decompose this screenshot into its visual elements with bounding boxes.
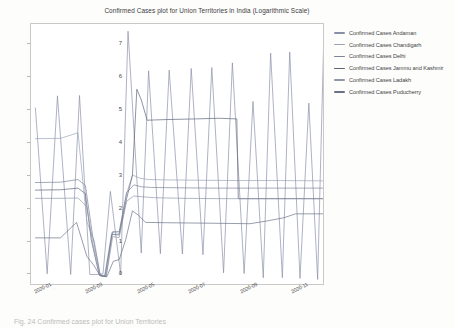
legend-line-swatch-icon (334, 32, 345, 33)
legend-label: Confirmed Cases Delhi (349, 53, 405, 59)
legend-line-swatch-icon (334, 79, 345, 80)
y-tick-mark (27, 175, 30, 176)
series-line (35, 133, 323, 276)
y-tick-mark (27, 109, 30, 110)
legend-line-swatch-icon (334, 44, 345, 45)
legend-item[interactable]: Confirmed Cases Puducherry (334, 86, 454, 98)
legend-item[interactable]: Confirmed Cases Ladakh (334, 74, 454, 86)
y-tick-label: 5 (108, 105, 122, 111)
y-tick-mark (27, 76, 30, 77)
legend-line-swatch-icon (334, 68, 345, 69)
legend-label: Confirmed Cases Ladakh (349, 77, 411, 83)
y-tick-mark (27, 142, 30, 143)
series-line (35, 31, 323, 279)
plot-area (30, 23, 324, 285)
y-tick-label: 6 (108, 72, 122, 78)
y-tick-label: 4 (108, 138, 122, 144)
x-tick-mark (248, 285, 249, 288)
legend-line-swatch-icon (334, 56, 345, 57)
x-tick-mark (93, 285, 94, 288)
chart-legend: Confirmed Cases AndamanConfirmed Cases C… (334, 27, 454, 98)
y-tick-mark (27, 273, 30, 274)
y-tick-label: 7 (108, 39, 122, 45)
plot-lines (31, 24, 324, 285)
y-tick-label: 0 (108, 270, 122, 276)
legend-label: Confirmed Cases Andaman (349, 30, 416, 36)
legend-label: Confirmed Cases Jammu and Kashmir (349, 65, 443, 71)
x-tick-mark (299, 285, 300, 288)
legend-line-swatch-icon (334, 91, 345, 92)
y-tick-label: 1 (108, 237, 122, 243)
x-tick-mark (196, 285, 197, 288)
y-tick-mark (27, 208, 30, 209)
y-tick-label: 3 (108, 171, 122, 177)
legend-item[interactable]: Confirmed Cases Chandigarh (334, 39, 454, 51)
figure-caption: Fig. 24 Confirmed cases plot for Union T… (14, 318, 334, 328)
legend-label: Confirmed Cases Chandigarh (349, 42, 421, 48)
legend-item[interactable]: Confirmed Cases Jammu and Kashmir (334, 62, 454, 74)
legend-item[interactable]: Confirmed Cases Delhi (334, 51, 454, 63)
x-tick-mark (42, 285, 43, 288)
legend-item[interactable]: Confirmed Cases Andaman (334, 27, 454, 39)
y-tick-mark (27, 43, 30, 44)
x-tick-mark (145, 285, 146, 288)
legend-label: Confirmed Cases Puducherry (349, 89, 421, 95)
y-tick-mark (27, 241, 30, 242)
chart-title: Confirmed Cases plot for Union Territori… (62, 6, 352, 15)
chart-figure: Confirmed Cases plot for Union Territori… (0, 0, 454, 328)
y-tick-label: 2 (108, 204, 122, 210)
